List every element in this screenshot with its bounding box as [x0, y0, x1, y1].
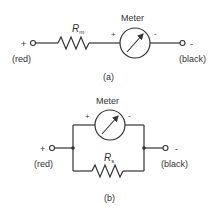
resistor-rs-icon — [92, 165, 123, 177]
terminal-a-left-sign: + — [21, 39, 26, 49]
meter-a-label: Meter — [121, 13, 144, 23]
meter-b-label: Meter — [96, 96, 119, 106]
caption-a: (a) — [103, 72, 114, 82]
ammeter-circuits-diagram: + (red) Rm Meter + - - (black) (a) Meter… — [0, 0, 213, 211]
terminal-b-right-sign: - — [175, 144, 178, 154]
circuit-b: Meter + (red) + - Rs - (black) (b) — [34, 96, 188, 203]
meter-b-plus: + — [85, 112, 90, 121]
resistor-rm-label: Rm — [72, 23, 84, 35]
meter-a-plus: + — [111, 30, 116, 39]
meter-a-minus: - — [154, 29, 157, 38]
terminal-a-right-color: (black) — [179, 54, 206, 64]
terminal-a-right-icon — [180, 41, 185, 46]
terminal-b-left-color: (red) — [34, 159, 53, 169]
resistor-rm-icon — [58, 37, 89, 49]
caption-b: (b) — [104, 193, 115, 203]
terminal-b-right-icon — [163, 146, 168, 151]
resistor-rs-label: Rs — [104, 152, 114, 164]
terminal-b-right-color: (black) — [161, 159, 188, 169]
meter-b-minus: - — [128, 111, 131, 120]
terminal-a-left-color: (red) — [12, 54, 31, 64]
circuit-a: + (red) Rm Meter + - - (black) (a) — [12, 13, 206, 82]
terminal-a-left-icon — [31, 41, 36, 46]
terminal-b-left-icon — [50, 146, 55, 151]
terminal-a-right-sign: - — [190, 39, 193, 49]
terminal-b-left-sign: + — [40, 144, 45, 154]
